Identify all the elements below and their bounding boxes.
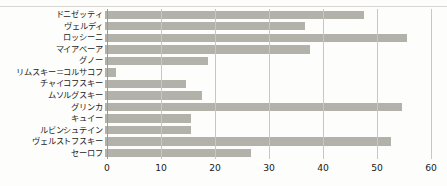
bar-track: [105, 101, 447, 113]
bar-category-label: キュイー: [0, 114, 105, 123]
x-tick-label: 50: [371, 162, 383, 173]
bar-row: グリンカ: [0, 101, 447, 113]
bar-category-label: ヴェルディ: [0, 22, 105, 31]
bar-row: ロッシーニ: [0, 32, 447, 44]
bar-chart: ドニゼッティヴェルディロッシーニマイアベーアグノーリムスキー＝コルサコフチャイコ…: [0, 0, 447, 186]
top-rule-divider: [0, 6, 447, 7]
bar-category-label: ロッシーニ: [0, 33, 105, 42]
bar-row: ヴェルディ: [0, 21, 447, 33]
bar-category-label: ムソルグスキー: [0, 91, 105, 100]
bar: [105, 11, 364, 19]
bar-track: [105, 21, 447, 33]
plot-area: ドニゼッティヴェルディロッシーニマイアベーアグノーリムスキー＝コルサコフチャイコ…: [0, 9, 447, 159]
x-tick-label: 60: [425, 162, 437, 173]
bar-row: ドニゼッティ: [0, 9, 447, 21]
bar: [105, 149, 251, 157]
bar-row: ヴェルストフスキー: [0, 136, 447, 148]
bar-row: ルビンシュテイン: [0, 124, 447, 136]
bar-track: [105, 136, 447, 148]
bar-row: チャイコフスキー: [0, 78, 447, 90]
bar: [105, 91, 202, 99]
bar-track: [105, 90, 447, 102]
bar-category-label: ルビンシュテイン: [0, 126, 105, 135]
bar-track: [105, 113, 447, 125]
bar: [105, 22, 305, 30]
bar-track: [105, 147, 447, 159]
bar-category-label: セーロフ: [0, 149, 105, 158]
bar: [105, 57, 208, 65]
bar-category-label: マイアベーア: [0, 45, 105, 54]
bar: [105, 68, 116, 76]
bar: [105, 126, 191, 134]
bar-category-label: ドニゼッティ: [0, 10, 105, 19]
x-tick-label: 0: [104, 162, 110, 173]
bar: [105, 103, 402, 111]
x-axis-tick-labels: 0102030405060: [0, 162, 447, 180]
bar-track: [105, 124, 447, 136]
bar-track: [105, 67, 447, 79]
bar-row: セーロフ: [0, 147, 447, 159]
bar-row: マイアベーア: [0, 44, 447, 56]
x-tick-label: 40: [317, 162, 329, 173]
bar-track: [105, 32, 447, 44]
bar-track: [105, 55, 447, 67]
bar-track: [105, 78, 447, 90]
bar-track: [105, 9, 447, 21]
bar-row: ムソルグスキー: [0, 90, 447, 102]
bar: [105, 34, 407, 42]
bar-category-label: グノー: [0, 56, 105, 65]
bar: [105, 45, 310, 53]
bar-track: [105, 44, 447, 56]
bar: [105, 114, 191, 122]
bar-row: リムスキー＝コルサコフ: [0, 67, 447, 79]
x-tick-label: 10: [155, 162, 167, 173]
bar-category-label: チャイコフスキー: [0, 79, 105, 88]
bar: [105, 80, 186, 88]
bar-category-label: グリンカ: [0, 103, 105, 112]
bar: [105, 137, 391, 145]
bar-category-label: ヴェルストフスキー: [0, 137, 105, 146]
x-tick-label: 30: [263, 162, 275, 173]
bar-row: グノー: [0, 55, 447, 67]
x-tick-label: 20: [209, 162, 221, 173]
bar-row: キュイー: [0, 113, 447, 125]
bar-category-label: リムスキー＝コルサコフ: [0, 68, 105, 77]
